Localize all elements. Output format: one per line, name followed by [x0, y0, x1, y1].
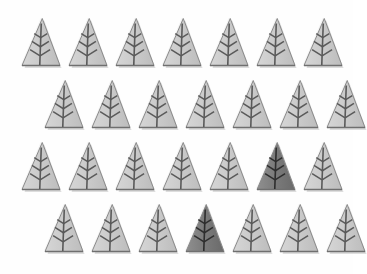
tree-icon-r4-c7[interactable] [325, 202, 367, 258]
tree-icon-r4-c2[interactable] [90, 202, 132, 258]
tree-icon-r4-c5[interactable] [231, 202, 273, 258]
tree-4-2-shape [90, 202, 132, 258]
tree-icon-r4-c4[interactable] [184, 202, 226, 258]
tree-icon-r4-c3[interactable] [137, 202, 179, 258]
tree-4-3-shape [137, 202, 179, 258]
tree-4-1-shape [43, 202, 85, 258]
tree-4-7-shape [325, 202, 367, 258]
tree-icon-r4-c1[interactable] [43, 202, 85, 258]
tree-4-4-shape [184, 202, 226, 258]
tree-4-6-shape [278, 202, 320, 258]
tree-4-5-shape [231, 202, 273, 258]
tree-icon-r4-c6[interactable] [278, 202, 320, 258]
